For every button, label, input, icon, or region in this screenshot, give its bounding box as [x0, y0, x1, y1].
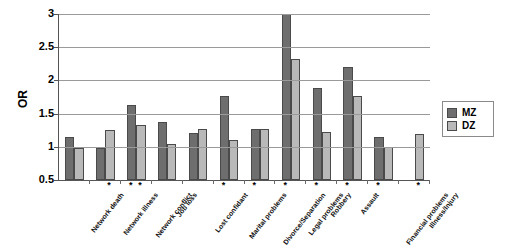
significance-asterisk: * [136, 181, 144, 189]
bar-dz [167, 144, 176, 180]
significance-asterisk: * [105, 181, 113, 189]
y-axis-tick [54, 14, 59, 15]
significance-asterisk: * [312, 181, 320, 189]
bar-group [96, 14, 115, 180]
significance-asterisk: * [414, 181, 422, 189]
y-axis-tick-label: 0.5 [28, 173, 54, 185]
x-axis-tick [182, 180, 183, 184]
x-axis-label: Financial problems [405, 191, 450, 246]
x-axis-tick [305, 180, 306, 184]
y-axis-tick-label: 1 [28, 140, 54, 152]
bar-group [251, 14, 270, 180]
bar-mz [96, 148, 105, 180]
bar-dz [415, 134, 424, 181]
legend-label-mz: MZ [462, 107, 476, 118]
legend-swatch-mz [447, 108, 457, 118]
chart-figure: OR 32.521.510.5 Network deathNetwork ill… [0, 0, 510, 249]
bar-dz [198, 129, 207, 180]
bar-mz [65, 137, 74, 180]
x-axis-label: Network illness [122, 191, 159, 236]
bar-dz [136, 125, 145, 180]
y-axis-tick-label: 3 [28, 7, 54, 19]
bar-group [158, 14, 177, 180]
bar-dz [105, 130, 114, 180]
x-axis-label: Legal problems [308, 191, 345, 236]
y-axis-tick [54, 80, 59, 81]
gridline [59, 114, 430, 115]
bar-group [65, 14, 84, 180]
significance-asterisk: * [219, 181, 227, 189]
bar-dz [260, 129, 269, 180]
x-axis-label: Lost confidant [214, 191, 249, 233]
plot-area [58, 14, 429, 180]
bar-mz [343, 67, 352, 180]
bar-group [282, 14, 301, 180]
bar-mz [282, 14, 291, 180]
legend-swatch-dz [447, 121, 457, 131]
x-axis-tick [120, 180, 121, 184]
bar-group [343, 14, 362, 180]
bar-group [405, 14, 424, 180]
x-axis-tick [367, 180, 368, 184]
significance-asterisk: * [127, 181, 135, 189]
x-axis-tick [429, 180, 430, 184]
y-axis-tick-label: 2 [28, 73, 54, 85]
bar-mz [158, 122, 167, 180]
bar-dz [291, 59, 300, 181]
significance-asterisk: * [250, 181, 258, 189]
gridline [59, 80, 430, 81]
bar-group [127, 14, 146, 180]
chart-legend: MZ DZ [442, 101, 494, 137]
gridline [59, 14, 430, 15]
bar-mz [313, 88, 322, 180]
legend-item-mz: MZ [447, 106, 489, 119]
bar-mz [127, 105, 136, 180]
bar-group [189, 14, 208, 180]
bar-dz [353, 96, 362, 180]
y-axis-tick [54, 147, 59, 148]
bar-mz [220, 96, 229, 180]
x-axis-tick [244, 180, 245, 184]
x-axis-tick [398, 180, 399, 184]
x-axis-label: Assault [359, 191, 380, 215]
bar-group [313, 14, 332, 180]
x-axis-label: Network death [90, 191, 125, 233]
y-axis-tick-labels: 32.521.510.5 [24, 14, 54, 180]
y-axis-tick-label: 1.5 [28, 107, 54, 119]
bar-mz [374, 137, 383, 180]
bar-group [374, 14, 393, 180]
legend-item-dz: DZ [447, 119, 489, 132]
x-axis-tick [336, 180, 337, 184]
significance-asterisk: * [374, 181, 382, 189]
y-axis-tick [54, 114, 59, 115]
x-axis-tick [151, 180, 152, 184]
y-axis-tick [54, 47, 59, 48]
x-axis-tick [89, 180, 90, 184]
bar-group [220, 14, 239, 180]
y-axis-tick-label: 2.5 [28, 40, 54, 52]
significance-asterisk: * [343, 181, 351, 189]
x-axis-label: Marital problems [247, 191, 287, 239]
bar-mz [189, 133, 198, 180]
y-axis-tick [54, 180, 59, 181]
x-axis-tick [274, 180, 275, 184]
legend-label-dz: DZ [462, 120, 475, 131]
x-axis-tick [213, 180, 214, 184]
bar-dz [384, 147, 393, 180]
gridline [59, 147, 430, 148]
significance-asterisk: * [281, 181, 289, 189]
bar-dz [322, 132, 331, 180]
bar-dz [74, 148, 83, 181]
bars-layer [59, 14, 430, 180]
bar-mz [251, 129, 260, 180]
gridline [59, 47, 430, 48]
